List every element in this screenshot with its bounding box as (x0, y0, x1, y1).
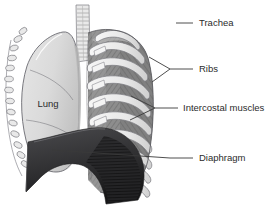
anatomy-illustration: Lung (0, 0, 278, 212)
lung-inline-label: Lung (37, 98, 58, 109)
label-intercostal-muscles: Intercostal muscles (183, 102, 265, 113)
label-diaphragm: Diaphragm (199, 152, 246, 163)
anatomy-figure: Lung (0, 0, 278, 212)
label-trachea: Trachea (199, 17, 234, 28)
label-ribs: Ribs (199, 63, 218, 74)
